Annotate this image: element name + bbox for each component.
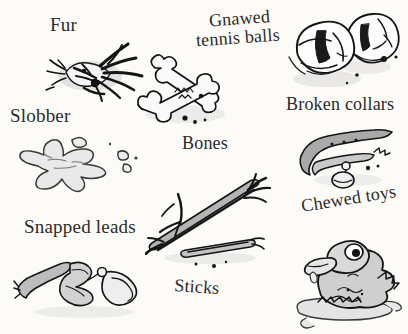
label-broken-collars: Broken collars	[286, 95, 394, 114]
label-bones: Bones	[182, 134, 228, 153]
snapped-lead-figure	[14, 252, 154, 322]
label-gnawed-line2: tennis balls	[195, 26, 280, 51]
label-fur: Fur	[50, 15, 77, 36]
crossed-bones-figure	[135, 56, 239, 134]
label-snapped-leads: Snapped leads	[24, 217, 136, 238]
tennis-balls-figure	[285, 5, 403, 97]
fur-tuft-figure	[38, 38, 148, 106]
sticks-figure	[144, 172, 272, 278]
chewed-duck-toy-figure	[292, 232, 406, 332]
label-gnawed-tennis-balls: Gnawed tennis balls	[200, 7, 280, 51]
illustration-page: Fur	[0, 0, 408, 334]
broken-collar-figure	[296, 124, 400, 190]
slobber-splat-figure	[14, 132, 142, 194]
label-sticks: Sticks	[174, 276, 220, 299]
label-slobber: Slobber	[10, 106, 71, 127]
